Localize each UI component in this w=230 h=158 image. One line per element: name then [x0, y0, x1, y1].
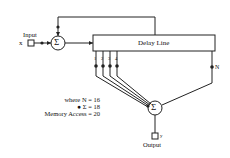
tap-n-label: N: [215, 63, 219, 71]
output-symbol: y: [160, 132, 163, 140]
fir-filter-diagram: Input x Σ Delay Line 1 2 3 4 N Σ y Outpu…: [0, 0, 230, 158]
tap-2-label: 2: [101, 55, 103, 63]
tap-4-label: 4: [115, 55, 117, 63]
tap-1-label: 1: [94, 55, 96, 63]
output-label: Output: [143, 141, 161, 149]
input-label: Input: [23, 31, 37, 39]
output-port-icon: [152, 133, 158, 139]
input-symbol: x: [19, 39, 23, 47]
legend-sum: ● Σ = 18: [77, 103, 100, 110]
delay-line-label: Delay Line: [138, 39, 169, 47]
input-port-icon: [28, 40, 34, 46]
legend-n: where N = 16: [64, 96, 100, 103]
diagram-lines: [0, 0, 230, 158]
input-sum-symbol: Σ: [54, 38, 59, 46]
tap-3-label: 3: [108, 55, 110, 63]
legend-memory: Memory Access = 20: [45, 110, 100, 117]
output-sum-symbol: Σ: [151, 103, 156, 111]
